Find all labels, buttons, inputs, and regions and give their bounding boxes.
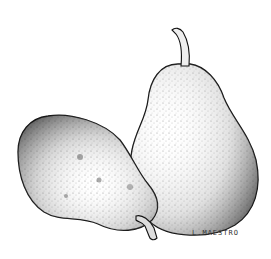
artist-signature: L.MAESTRO bbox=[192, 229, 239, 237]
pear-illustration: L.MAESTRO bbox=[0, 0, 271, 259]
pears-drawing bbox=[0, 0, 271, 259]
right-pear-stem bbox=[172, 28, 189, 66]
